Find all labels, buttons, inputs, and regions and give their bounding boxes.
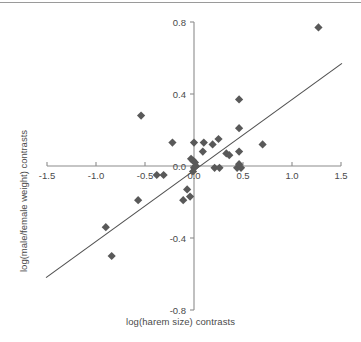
x-tick-label: 0.5 [236, 170, 249, 181]
data-point [137, 112, 145, 120]
data-point [183, 185, 191, 193]
data-point [179, 196, 187, 204]
x-axis-label: log(harem size) contrasts [0, 316, 361, 327]
y-tick-label: -0.4 [170, 233, 186, 244]
y-axis-label-text: log(male/female weight) contrasts [18, 130, 29, 272]
x-tick-label: 1.5 [334, 170, 347, 181]
y-tick-label: 0.4 [173, 89, 186, 100]
plot-canvas: -1.5-1.0-0.50.00.51.01.5-0.8-0.40.00.40.… [0, 0, 361, 342]
x-tick-label: -1.0 [88, 170, 104, 181]
data-point [153, 171, 161, 179]
x-tick-label: -0.5 [137, 170, 153, 181]
data-point [102, 223, 110, 231]
data-point [190, 139, 198, 147]
data-point [168, 139, 176, 147]
y-axis-label: log(male/female weight) contrasts [18, 272, 160, 283]
y-tick-label: -0.8 [170, 305, 186, 316]
data-point [235, 124, 243, 132]
x-tick-label: 1.0 [285, 170, 298, 181]
data-point [215, 164, 223, 172]
data-point [200, 139, 208, 147]
data-point [235, 148, 243, 156]
data-point [199, 148, 207, 156]
x-tick-label: -1.5 [39, 170, 55, 181]
scatter-plot-figure: -1.5-1.0-0.50.00.51.01.5-0.8-0.40.00.40.… [0, 0, 361, 342]
data-point [214, 135, 222, 143]
data-point [235, 95, 243, 103]
y-tick-label: 0.8 [173, 17, 186, 28]
data-point [134, 196, 142, 204]
data-point [314, 23, 322, 31]
data-point [209, 140, 217, 148]
data-point [259, 140, 267, 148]
data-point [186, 193, 194, 201]
y-tick-label: 0.0 [173, 161, 186, 172]
data-point [108, 252, 116, 260]
